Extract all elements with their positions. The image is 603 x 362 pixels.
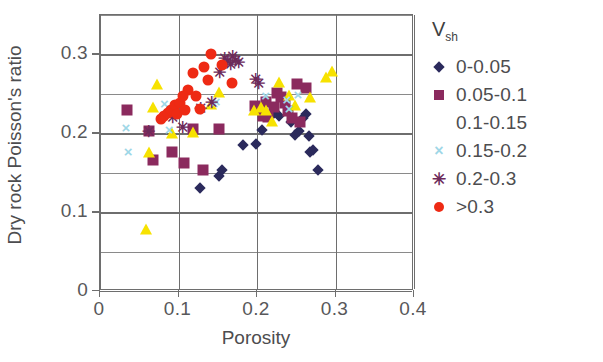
data-point — [195, 182, 206, 193]
x-tick-mark — [413, 290, 414, 297]
data-point — [273, 110, 284, 121]
y-tick-label: 0 — [0, 279, 96, 301]
gridline-horizontal — [100, 133, 412, 134]
data-point — [151, 78, 163, 89]
diamond-icon — [428, 63, 450, 71]
data-point — [292, 79, 303, 90]
data-point — [213, 87, 225, 98]
square-icon — [428, 90, 450, 100]
gridline-vertical — [100, 15, 101, 289]
data-point — [280, 97, 291, 108]
data-point — [178, 158, 189, 169]
legend-title-subscript: sh — [445, 30, 458, 44]
y-tick-mark — [92, 132, 99, 133]
data-point — [260, 105, 272, 116]
cross-icon: × — [428, 143, 450, 159]
star-icon: ✳ — [428, 171, 450, 188]
data-point — [289, 99, 301, 110]
gridline-horizontal — [100, 54, 412, 55]
data-point — [203, 75, 214, 86]
data-point — [269, 107, 280, 118]
data-point: ✳ — [166, 110, 179, 126]
data-point — [286, 113, 297, 124]
data-point — [166, 104, 177, 115]
legend-entries: 0-0.050.05-0.10.1-0.15×0.15-0.2✳0.2-0.3>… — [428, 54, 598, 220]
y-tick-label: 0.2 — [0, 121, 96, 143]
legend-item-label: 0-0.05 — [456, 56, 511, 78]
legend-title: Vsh — [432, 18, 598, 44]
data-point — [143, 125, 154, 136]
data-point: × — [212, 93, 221, 108]
data-point — [195, 103, 206, 114]
data-point: ✳ — [205, 95, 218, 111]
y-tick-mark — [92, 211, 99, 212]
legend: Vsh 0-0.050.05-0.10.1-0.15×0.15-0.2✳0.2-… — [428, 18, 598, 222]
legend-item-label: 0.05-0.1 — [456, 84, 527, 106]
data-point — [269, 102, 280, 113]
gridline-vertical — [336, 15, 337, 289]
data-point — [216, 59, 227, 70]
legend-item-label: 0.2-0.3 — [456, 168, 517, 190]
data-point: × — [160, 95, 169, 110]
data-point: ✳ — [194, 101, 207, 117]
data-point — [162, 107, 173, 118]
legend-item-star[interactable]: ✳0.2-0.3 — [428, 166, 598, 192]
data-point: ✳ — [142, 124, 155, 140]
data-point: ✳ — [252, 76, 265, 92]
data-point: ✳ — [224, 57, 237, 73]
data-point — [249, 101, 260, 112]
data-point: × — [122, 119, 131, 134]
data-point — [262, 111, 273, 122]
data-point — [226, 77, 237, 88]
gridline-vertical — [179, 15, 180, 289]
y-tick-label: 0.1 — [0, 200, 96, 222]
data-point — [282, 106, 293, 117]
data-point — [175, 98, 186, 109]
legend-title-base: V — [432, 18, 445, 40]
data-point — [320, 71, 332, 82]
data-point — [205, 99, 217, 110]
data-point — [159, 110, 170, 121]
legend-item-label: 0.15-0.2 — [456, 140, 527, 162]
legend-item-label: 0.1-0.15 — [456, 112, 527, 134]
data-point — [300, 82, 311, 93]
data-point — [297, 113, 308, 124]
x-tick-label: 0 — [94, 298, 105, 320]
y-tick-label: 0.3 — [0, 42, 96, 64]
legend-item-cross[interactable]: ×0.15-0.2 — [428, 138, 598, 164]
data-point: × — [285, 101, 294, 116]
data-point — [294, 125, 305, 136]
gridline-vertical — [414, 15, 415, 289]
gridline-horizontal — [100, 94, 412, 95]
legend-item-circle[interactable]: >0.3 — [428, 194, 598, 220]
gridline-horizontal — [100, 252, 412, 253]
scatter-chart: Dry rock Poisson's ratio Porosity 00.10.… — [0, 0, 603, 362]
data-point — [307, 144, 318, 155]
data-point — [295, 117, 306, 128]
data-point — [198, 62, 209, 73]
legend-item-triangle[interactable]: 0.1-0.15 — [428, 110, 598, 136]
data-point — [197, 165, 208, 176]
data-point — [148, 155, 159, 166]
x-tick-label: 0.3 — [321, 298, 348, 320]
data-point — [285, 117, 296, 128]
data-point — [290, 129, 301, 140]
data-point — [143, 147, 155, 158]
data-point — [171, 109, 182, 120]
gridline-horizontal — [100, 212, 412, 213]
legend-item-diamond[interactable]: 0-0.05 — [428, 54, 598, 80]
x-tick-label: 0.1 — [164, 298, 191, 320]
legend-item-square[interactable]: 0.05-0.1 — [428, 82, 598, 108]
data-point: ✳ — [249, 72, 262, 88]
data-point — [266, 115, 278, 126]
data-point: ✳ — [213, 65, 226, 81]
gridline-horizontal — [100, 291, 412, 292]
y-tick-mark — [92, 53, 99, 54]
circle-icon — [428, 202, 450, 212]
x-axis-title: Porosity — [99, 327, 413, 349]
data-point — [261, 96, 272, 107]
data-point — [237, 139, 248, 150]
x-tick-label: 0.4 — [399, 298, 426, 320]
data-point — [258, 110, 269, 121]
x-tick-label: 0.2 — [242, 298, 269, 320]
